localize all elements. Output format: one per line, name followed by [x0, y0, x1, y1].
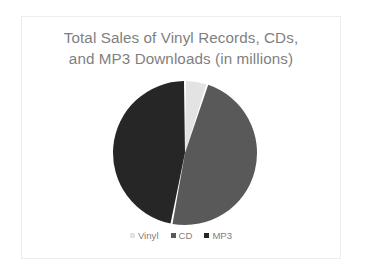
chart-legend: VinylCDMP3: [22, 230, 340, 241]
pie-slice-mp3[interactable]: [113, 81, 185, 224]
legend-label: MP3: [212, 230, 232, 241]
pie-chart: [111, 79, 259, 227]
legend-item-mp3[interactable]: MP3: [204, 230, 232, 241]
legend-swatch-icon: [204, 233, 209, 238]
legend-swatch-icon: [171, 233, 176, 238]
legend-label: Vinyl: [138, 230, 159, 241]
legend-label: CD: [179, 230, 193, 241]
legend-item-cd[interactable]: CD: [171, 230, 193, 241]
legend-item-vinyl[interactable]: Vinyl: [130, 230, 159, 241]
pie-chart-area: [22, 17, 340, 258]
pie-slice-cd[interactable]: [173, 85, 258, 225]
slide-frame: Total Sales of Vinyl Records, CDs, and M…: [21, 16, 341, 259]
pie-slice-group: [113, 81, 257, 225]
legend-swatch-icon: [130, 233, 135, 238]
